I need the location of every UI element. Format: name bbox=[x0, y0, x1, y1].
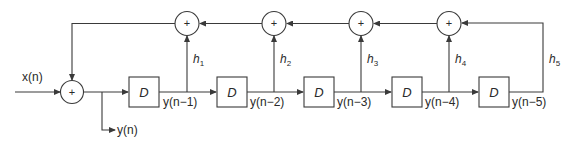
coefficient-h2: h2 bbox=[280, 53, 291, 68]
delay-output-label-5: y(n−5) bbox=[512, 96, 546, 108]
coefficient-h4: h4 bbox=[455, 53, 466, 68]
delay-label-1: D bbox=[129, 86, 159, 99]
delay-label-5: D bbox=[479, 86, 509, 99]
coefficient-h3: h3 bbox=[367, 53, 378, 68]
delay-label-3: D bbox=[304, 86, 334, 99]
coefficient-h1: h1 bbox=[193, 53, 204, 68]
feedback-line-to-input-adder bbox=[72, 24, 175, 81]
delay-label-4: D bbox=[392, 86, 422, 99]
feedback-adder-4-plus: + bbox=[437, 18, 461, 29]
output-branch-line bbox=[102, 92, 115, 130]
delay-label-2: D bbox=[217, 86, 247, 99]
delay-output-label-4: y(n−4) bbox=[425, 96, 459, 108]
feedback-adder-2-plus: + bbox=[262, 18, 286, 29]
delay-output-label-1: y(n−1) bbox=[163, 96, 197, 108]
output-label: y(n) bbox=[117, 124, 138, 136]
coefficient-h5: h5 bbox=[549, 53, 560, 68]
feedback-adder-3-plus: + bbox=[349, 18, 373, 29]
input-label: x(n) bbox=[22, 71, 43, 83]
delay-output-label-3: y(n−3) bbox=[337, 96, 371, 108]
input-adder-plus: + bbox=[60, 87, 84, 98]
feedback-adder-1-plus: + bbox=[175, 18, 199, 29]
delay-output-label-2: y(n−2) bbox=[250, 96, 284, 108]
